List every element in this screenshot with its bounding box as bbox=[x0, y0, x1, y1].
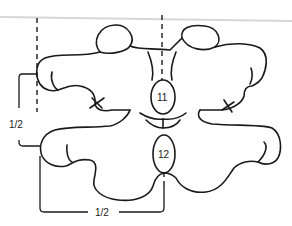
upper-left-fold bbox=[51, 72, 58, 90]
x-mark-left bbox=[90, 98, 104, 108]
upper-neck-left bbox=[148, 52, 153, 80]
lower-right-fold bbox=[258, 142, 266, 162]
upper-right-loop bbox=[182, 26, 219, 50]
upper-neck-top bbox=[130, 38, 182, 50]
horizontal-dim-bracket-right bbox=[119, 186, 164, 212]
upper-neck-right bbox=[171, 52, 176, 80]
horizontal-dim-label: 1/2 bbox=[95, 207, 109, 218]
upper-left-outline bbox=[37, 52, 130, 111]
lower-right-outline bbox=[164, 110, 280, 192]
lower-left-fold bbox=[67, 145, 72, 162]
vertical-dim-bracket-bottom bbox=[19, 140, 40, 146]
lower-left-outline bbox=[41, 110, 164, 200]
horizontal-dim-bracket-left bbox=[40, 156, 88, 212]
oval-label-12: 12 bbox=[158, 149, 170, 160]
diagram-canvas: 1/2 1/2 11 12 bbox=[0, 0, 292, 226]
top-rule bbox=[0, 17, 292, 21]
vertical-dim-bracket-top bbox=[19, 74, 37, 108]
upper-right-outline bbox=[200, 44, 266, 110]
oval-label-11: 11 bbox=[157, 92, 168, 103]
upper-right-fold bbox=[250, 68, 252, 84]
vertical-dim-label: 1/2 bbox=[9, 119, 23, 130]
upper-left-loop bbox=[96, 25, 132, 53]
